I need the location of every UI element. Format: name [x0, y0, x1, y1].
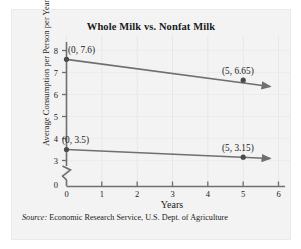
data-point	[64, 147, 69, 152]
x-tick-label-6: 6	[272, 189, 286, 199]
horizontal-gridlines	[66, 51, 290, 161]
annotation-nonfat-milk-start: (0, 3.5)	[62, 135, 89, 145]
x-tick-label-0: 0	[60, 189, 74, 199]
source-note: Source: Economic Research Service, U.S. …	[22, 213, 228, 222]
data-point	[241, 78, 246, 83]
x-tick-label-1: 1	[95, 189, 109, 199]
annotation-whole-milk-start: (0, 7.6)	[68, 45, 95, 55]
figure-container: Whole Milk vs. Nonfat Milk	[0, 0, 301, 249]
source-text: Economic Research Service, U.S. Dept. of…	[47, 213, 228, 222]
x-tick-label-4: 4	[201, 189, 215, 199]
y-tick-label-3: 3	[44, 156, 58, 166]
y-tick-label-6: 6	[44, 90, 58, 100]
y-axis-title: Average Consumption per Person per Year …	[32, 0, 60, 122]
y-tick-label-5: 5	[44, 112, 58, 122]
y-tick-label-8: 8	[44, 46, 58, 56]
x-tick-label-3: 3	[166, 189, 180, 199]
source-label: Source:	[22, 213, 47, 222]
y-axis-origin-label: 0	[44, 180, 58, 190]
x-tick-label-5: 5	[236, 189, 250, 199]
data-point	[64, 57, 69, 62]
y-tick-label-7: 7	[44, 68, 58, 78]
annotation-whole-milk-end: (5, 6.65)	[222, 66, 254, 76]
x-axis-title: Years	[132, 199, 212, 210]
annotation-nonfat-milk-end: (5, 3.15)	[222, 143, 254, 153]
data-point	[241, 155, 246, 160]
y-tick-label-4: 4	[44, 134, 58, 144]
x-tick-label-2: 2	[130, 189, 144, 199]
vertical-gridlines	[67, 36, 279, 186]
